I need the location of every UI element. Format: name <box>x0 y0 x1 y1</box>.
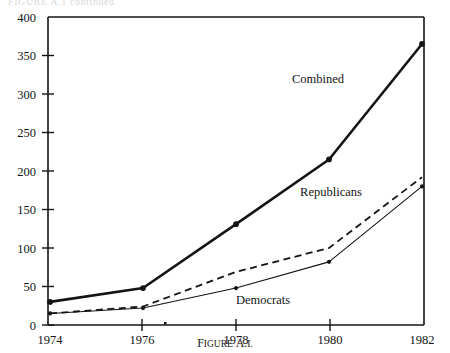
chart-canvas: 0 50 100 150 200 250 300 350 400 1974 19… <box>0 0 450 353</box>
y-axis-label-300: 300 <box>17 88 36 102</box>
series-markers-combined <box>47 41 425 305</box>
figure-caption: FIGURE A.I. <box>0 336 450 351</box>
axis-frame <box>48 17 424 325</box>
y-axis-label-350: 350 <box>17 49 36 63</box>
series-annotations: Combined Republicans Democrats <box>236 72 362 307</box>
figure-caption-number: A. <box>236 336 248 350</box>
y-axis-label-200: 200 <box>17 165 36 179</box>
y-axis-label-150: 150 <box>17 203 36 217</box>
figure-caption-word: IGURE <box>204 339 233 349</box>
series-group <box>47 41 425 316</box>
series-label-democrats: Democrats <box>236 293 290 307</box>
figure-caption-initial: F <box>197 336 204 350</box>
series-label-combined: Combined <box>292 72 345 86</box>
figure-container: FIGURE A.1 continued 0 50 100 150 200 <box>0 0 450 353</box>
y-axis-label-50: 50 <box>24 280 37 294</box>
y-axis-label-400: 400 <box>17 11 36 25</box>
figure-caption-period: . <box>250 339 252 349</box>
series-label-republicans: Republicans <box>300 185 362 199</box>
y-axis-labels: 0 50 100 150 200 250 300 350 400 <box>17 11 36 333</box>
y-axis-label-100: 100 <box>17 242 36 256</box>
y-axis-label-0: 0 <box>30 319 36 333</box>
series-line-combined <box>50 44 422 302</box>
x-axis-speck-mark <box>164 322 167 325</box>
y-axis-label-250: 250 <box>17 126 36 140</box>
